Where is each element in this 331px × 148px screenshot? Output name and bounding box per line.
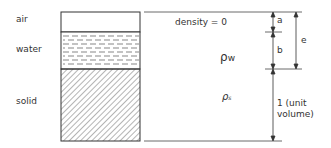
- air-layer: [61, 12, 140, 32]
- reference-lines: [144, 12, 302, 141]
- label-solid: solid: [16, 96, 37, 106]
- label-density-air: density = 0: [175, 17, 227, 27]
- dim-a: a: [277, 15, 283, 25]
- water-layer: [61, 32, 140, 69]
- solid-layer: [61, 69, 140, 141]
- dim-unit-2: volume): [277, 109, 314, 119]
- soil-column: [61, 12, 140, 141]
- dim-b: b: [277, 45, 283, 55]
- label-rho-w: ρw: [220, 50, 235, 64]
- dimension-arrows: [271, 12, 298, 141]
- dim-unit-1: 1 (unit: [277, 98, 307, 108]
- dim-e: e: [301, 35, 307, 45]
- label-water: water: [16, 44, 42, 54]
- label-air: air: [16, 14, 28, 24]
- label-rho-s: ρs: [222, 91, 232, 102]
